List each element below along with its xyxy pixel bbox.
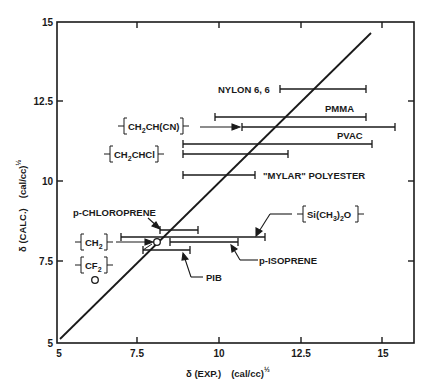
label-pmma: PMMA <box>325 103 354 114</box>
label-pib: PIB <box>206 272 222 283</box>
label-cf2: CF2 <box>75 257 113 273</box>
x-tick-label: 10 <box>213 348 225 359</box>
label-isoprene: p-ISOPRENE <box>259 255 317 266</box>
svg-text:CH2CH(CN): CH2CH(CN) <box>128 121 179 134</box>
range-bar-vinyl-chloride <box>183 150 288 158</box>
point-marker-cf2 <box>92 277 99 284</box>
x-axis-title: δ (EXP.)(cal/cc)½ <box>186 366 270 379</box>
svg-text:Si(CH3)2O: Si(CH3)2O <box>307 209 351 222</box>
label-chloroprene: p-CHLOROPRENE <box>73 207 156 218</box>
y-tick-label: 15 <box>42 17 54 28</box>
range-bar-siloxane <box>121 233 265 241</box>
range-bar-mylar <box>183 171 255 179</box>
label-siloxane: Si(CH3)2O <box>297 206 364 222</box>
y-tick-label: 7.5 <box>39 256 53 267</box>
range-bar-acrylonitrile <box>242 123 395 131</box>
range-bar-pvac <box>183 140 372 148</box>
svg-text:CF2: CF2 <box>85 260 102 273</box>
plot-frame <box>57 22 414 343</box>
y-tick-label: 12.5 <box>34 96 54 107</box>
x-tick-label: 12.5 <box>291 348 311 359</box>
x-axis-ticks <box>137 22 382 343</box>
y-tick-label: 10 <box>42 176 54 187</box>
label-pvac: PVAC <box>337 130 363 141</box>
range-bar-nylon <box>280 85 366 93</box>
point-marker-ch2 <box>154 239 161 246</box>
y-axis-title: δ (CALC.)(cal/cc)½ <box>15 159 28 252</box>
x-tick-label: 15 <box>377 348 389 359</box>
range-bar-pmma <box>215 113 366 121</box>
label-mylar: "MYLAR" POLYESTER <box>263 170 365 181</box>
x-tick-label: 5 <box>56 348 62 359</box>
x-tick-label: 7.5 <box>130 348 144 359</box>
label-ch2: CH2 <box>75 234 113 250</box>
svg-text:CH2: CH2 <box>85 237 103 250</box>
solubility-parameter-chart: 5 7.5 10 12.5 15 5 7.5 10 12.5 15 δ (EXP… <box>0 0 435 389</box>
range-bar-isoprene <box>170 238 238 246</box>
reference-line <box>60 33 371 339</box>
range-bar-chloroprene <box>160 226 198 234</box>
label-vinyl-chloride: CH2CHCl <box>104 146 164 162</box>
label-nylon: NYLON 6, 6 <box>218 84 270 95</box>
svg-text:CH2CHCl: CH2CHCl <box>114 149 155 162</box>
y-tick-label: 5 <box>47 338 53 349</box>
label-acrylonitrile: CH2CH(CN) <box>118 118 189 134</box>
